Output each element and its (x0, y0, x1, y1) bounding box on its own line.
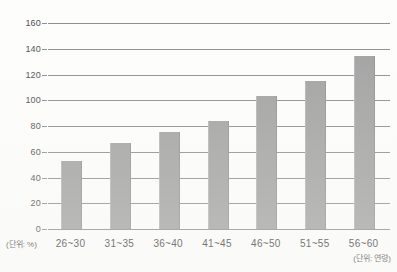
bars-group (48, 23, 390, 229)
y-tick-mark-120 (42, 75, 47, 76)
y-tick-mark-20 (42, 203, 47, 204)
x-axis-unit-label: (단위: 연령) (353, 252, 391, 263)
x-tick-label-41~45: 41~45 (202, 238, 232, 249)
y-tick-mark-160 (42, 23, 47, 24)
y-tick-mark-0 (42, 229, 47, 230)
bar-46~50 (256, 96, 277, 229)
bar-41~45 (208, 121, 229, 229)
x-tick-label-46~50: 46~50 (251, 238, 281, 249)
y-tick-label-140: 140 (25, 44, 41, 54)
bar-51~55 (305, 81, 326, 229)
bar-chart-figure: 020406080100120140160 26~3031~3536~4041~… (0, 0, 397, 272)
x-tick-label-31~35: 31~35 (105, 238, 135, 249)
y-tick-label-80: 80 (31, 121, 41, 131)
gridline-0 (48, 229, 390, 230)
y-tick-label-100: 100 (25, 95, 41, 105)
bar-31~35 (110, 143, 131, 229)
x-tick-label-51~55: 51~55 (300, 238, 330, 249)
y-tick-label-0: 0 (36, 224, 41, 234)
y-tick-mark-80 (42, 126, 47, 127)
x-tick-label-26~30: 26~30 (56, 238, 86, 249)
x-tick-label-56~60: 56~60 (349, 238, 379, 249)
y-tick-mark-140 (42, 49, 47, 50)
x-tick-label-36~40: 36~40 (153, 238, 183, 249)
y-tick-mark-100 (42, 100, 47, 101)
plot-area: 020406080100120140160 (48, 23, 390, 229)
y-tick-label-20: 20 (31, 198, 41, 208)
y-tick-label-40: 40 (31, 173, 41, 183)
y-tick-mark-40 (42, 178, 47, 179)
y-tick-label-120: 120 (25, 70, 41, 80)
bar-56~60 (354, 56, 375, 229)
y-tick-label-160: 160 (25, 18, 41, 28)
bar-36~40 (159, 132, 180, 229)
bar-26~30 (61, 161, 82, 229)
y-axis-unit-label: (단위: %) (6, 238, 37, 249)
y-tick-label-60: 60 (31, 147, 41, 157)
y-tick-mark-60 (42, 152, 47, 153)
